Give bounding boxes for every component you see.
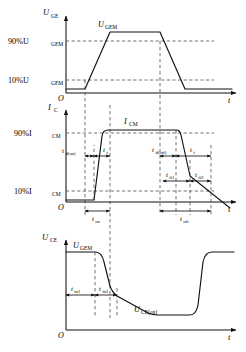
interval-tfu1-label-sub: fu1: [74, 289, 81, 294]
collector-current-y-axis-label: I C: [47, 103, 58, 113]
gate-10-percent-label-sub: GEM: [51, 80, 63, 86]
interval-toff-label-sub: off: [183, 219, 189, 224]
gate-10-percent-label: 10%U GEM: [8, 76, 63, 86]
figure-canvas: U GE t O 90%U GEM 10%U GEM U GEM: [0, 0, 246, 352]
gate-voltage-y-axis-label: U GE: [43, 8, 59, 19]
gate-voltage-x-axis-label: t: [228, 96, 231, 105]
interval-tfi2-label-sub: fi2: [198, 175, 204, 180]
collector-emitter-high-label-main: U: [73, 241, 80, 250]
collector-current-curve: [66, 130, 190, 200]
interval-td-off-label-sub: d(off): [156, 150, 167, 155]
collector-current-curve-label: I CM: [123, 117, 138, 127]
current-90-percent-label: 90%I CM: [14, 129, 61, 139]
gate-voltage-curve: [66, 32, 232, 89]
gate-90-percent-label: 90%U GEM: [8, 37, 63, 47]
collector-emitter-origin-label: O: [58, 331, 64, 340]
panel-gate-voltage: U GE t O 90%U GEM 10%U GEM U GEM: [8, 8, 236, 105]
collector-emitter-high-label-sub: GEM: [80, 245, 92, 251]
gate-90-percent-label-main: 90%U: [8, 37, 29, 46]
collector-emitter-high-label: U GEM: [73, 241, 92, 251]
interval-td-on: t d(on): [62, 147, 94, 156]
interval-tfu2-label-sub: fu2: [102, 289, 109, 294]
panel-collector-current: I C t O 90%I CM 10%I CM I CM t d(on): [14, 103, 236, 224]
current-90-percent-label-sub: CM: [52, 133, 61, 139]
gate-voltage-curve-label-main: U: [98, 20, 105, 29]
gate-voltage-y-axis-label-main: U: [43, 8, 50, 17]
interval-tr: t r: [94, 146, 110, 156]
interval-toff: t off: [160, 211, 211, 224]
gate-voltage-y-axis-label-sub: GE: [51, 13, 59, 19]
interval-tr-label-sub: r: [107, 150, 109, 155]
gate-voltage-curve-label-sub: GEM: [105, 24, 117, 30]
interval-tf-label-sub: f: [193, 150, 195, 155]
interval-tfi2: t fi2: [190, 171, 211, 181]
igbt-switching-waveform-diagram: U GE t O 90%U GEM 10%U GEM U GEM: [0, 0, 246, 352]
interval-tf: t f: [176, 146, 211, 156]
collector-current-y-axis-label-sub: C: [54, 107, 58, 113]
interval-ton-label-sub: on: [95, 219, 100, 224]
interval-tfi1: t fi1: [163, 171, 190, 181]
collector-emitter-voltage-curve: [66, 252, 234, 315]
collector-emitter-x-axis-label: t: [228, 333, 231, 342]
collector-current-y-axis-label-main: I: [47, 103, 52, 112]
collector-emitter-on-label: U CE(on): [134, 305, 157, 316]
interval-td-on-label-sub: d(on): [66, 151, 77, 156]
interval-tfi1-label-sub: fi1: [169, 175, 175, 180]
collector-current-curve-label-main: I: [123, 117, 128, 126]
collector-emitter-y-axis-label: U CE: [42, 233, 58, 243]
current-10-percent-label: 10%I CM: [14, 187, 61, 197]
collector-current-curve-label-sub: CM: [129, 121, 138, 127]
gate-10-percent-label-main: 10%U: [8, 76, 29, 85]
interval-tfu1: t fu1: [66, 285, 95, 295]
gate-90-percent-label-sub: GEM: [51, 41, 63, 47]
collector-emitter-on-label-main: U: [134, 305, 141, 314]
collector-emitter-on-label-sub: CE(on): [141, 309, 157, 316]
gate-voltage-curve-label: U GEM: [98, 20, 117, 30]
panel-collector-emitter-voltage: U CE t O U GEM U CE(on) t fu1 t fu2: [42, 233, 236, 342]
interval-td-off: t d(off): [152, 146, 176, 156]
current-90-percent-label-main: 90%I: [14, 129, 32, 138]
interval-ton: t on: [85, 211, 110, 224]
collector-current-origin-label: O: [58, 203, 64, 212]
collector-emitter-y-axis-label-sub: CE: [50, 237, 58, 243]
gate-voltage-origin-label: O: [58, 94, 64, 103]
current-10-percent-label-main: 10%I: [14, 187, 32, 196]
collector-current-x-axis-label: t: [228, 205, 231, 214]
collector-emitter-y-axis-label-main: U: [42, 233, 49, 242]
current-10-percent-label-sub: CM: [52, 191, 61, 197]
